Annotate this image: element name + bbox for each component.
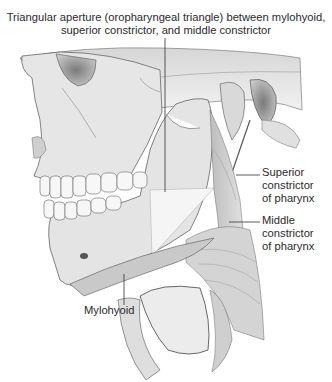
label-mylohyoid: Mylohyoid	[84, 304, 134, 317]
label-line: Superior	[262, 166, 314, 179]
label-superior-constrictor: Superior constrictor of pharynx	[262, 166, 314, 205]
label-line: constrictor	[262, 227, 314, 240]
label-line: of pharynx	[262, 240, 314, 253]
label-line: of pharynx	[262, 192, 314, 205]
label-line: Middle	[262, 214, 314, 227]
skull	[22, 52, 162, 181]
mental-foramen	[80, 253, 88, 259]
label-middle-constrictor: Middle constrictor of pharynx	[262, 214, 314, 253]
label-line: constrictor	[262, 179, 314, 192]
larynx	[118, 286, 232, 380]
